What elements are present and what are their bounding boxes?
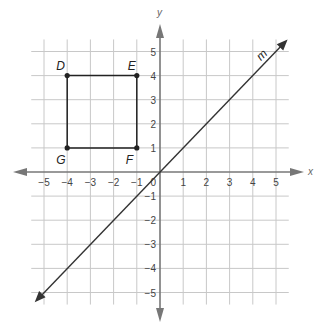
x-tick-label: −1 xyxy=(131,177,143,188)
coordinate-plane: −5−4−3−2−11234554321−1−2−3−4−50 DEFG m x… xyxy=(0,0,329,329)
x-tick-label: −5 xyxy=(38,177,50,188)
y-tick-label: 4 xyxy=(150,71,156,82)
y-tick-label: −2 xyxy=(145,215,157,226)
vertex-label-f: F xyxy=(126,153,134,167)
x-tick-label: 3 xyxy=(227,177,233,188)
vertex-label-g: G xyxy=(56,153,65,167)
vertex-point-d xyxy=(65,73,70,78)
y-axis-arrow-down-icon xyxy=(156,308,164,322)
x-axis-arrow-left-icon xyxy=(13,168,27,176)
square-defg: DEFG xyxy=(56,59,139,167)
x-tick-label: −4 xyxy=(61,177,73,188)
x-tick-label: 2 xyxy=(204,177,210,188)
y-tick-label: 3 xyxy=(150,95,156,106)
y-tick-label: 5 xyxy=(150,47,156,58)
x-tick-label: 5 xyxy=(273,177,279,188)
line-m-stroke xyxy=(40,44,283,297)
vertex-point-f xyxy=(134,145,139,150)
square-outline xyxy=(67,76,137,148)
x-tick-label: −3 xyxy=(85,177,97,188)
y-tick-label: −3 xyxy=(145,239,157,250)
vertex-point-g xyxy=(65,145,70,150)
x-axis-arrow-right-icon xyxy=(290,168,304,176)
vertex-label-e: E xyxy=(128,59,137,73)
y-tick-label: −5 xyxy=(145,288,157,299)
line-m: m xyxy=(35,39,288,302)
y-axis-label: y xyxy=(156,7,163,18)
y-axis-arrow-up-icon xyxy=(156,24,164,38)
y-tick-label: 1 xyxy=(150,143,156,154)
x-tick-label: 4 xyxy=(250,177,256,188)
vertex-label-d: D xyxy=(56,59,65,73)
x-tick-label: −2 xyxy=(108,177,120,188)
vertex-point-e xyxy=(134,73,139,78)
y-tick-label: −1 xyxy=(145,191,157,202)
y-tick-label: 2 xyxy=(150,119,156,130)
y-tick-label: −4 xyxy=(145,263,157,274)
x-tick-label: 1 xyxy=(180,177,186,188)
x-axis-label: x xyxy=(307,166,314,177)
